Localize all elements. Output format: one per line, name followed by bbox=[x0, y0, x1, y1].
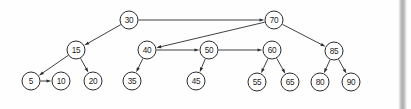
node-label-65: 65 bbox=[286, 78, 295, 87]
tree-node-40[interactable]: 40 bbox=[138, 41, 156, 59]
arrow-head-icon-n60 bbox=[257, 48, 262, 51]
arrow-head-icon-n15 bbox=[84, 41, 89, 45]
node-label-45: 45 bbox=[192, 77, 201, 86]
arrow-head-icon-n45 bbox=[200, 67, 203, 72]
arrow-head-icon-n40 bbox=[156, 45, 161, 48]
node-label-70: 70 bbox=[270, 16, 279, 25]
tree-diagram-svg: 3070154050608551020354555658090 bbox=[0, 0, 411, 109]
node-label-35: 35 bbox=[128, 77, 137, 86]
arrow-head-icon-n80 bbox=[324, 68, 328, 73]
tree-node-55[interactable]: 55 bbox=[248, 73, 266, 91]
arrow-head-icon-n35 bbox=[136, 67, 140, 72]
arrow-head-icon-n20 bbox=[85, 67, 89, 72]
node-layer: 3070154050608551020354555658090 bbox=[22, 11, 360, 91]
arrow-head-icon-n50 bbox=[194, 48, 199, 51]
tree-node-90[interactable]: 90 bbox=[342, 73, 360, 91]
tree-node-35[interactable]: 35 bbox=[123, 72, 141, 90]
node-label-50: 50 bbox=[205, 46, 214, 55]
arrow-head-icon-n85 bbox=[320, 43, 325, 47]
arrow-head-icon-n10 bbox=[46, 79, 51, 82]
node-label-60: 60 bbox=[268, 46, 277, 55]
arrow-head-icon-n55 bbox=[261, 68, 265, 73]
tree-node-20[interactable]: 20 bbox=[84, 72, 102, 90]
tree-node-65[interactable]: 65 bbox=[281, 73, 299, 91]
arrow-head-icon-n90 bbox=[343, 68, 347, 73]
node-label-5: 5 bbox=[29, 77, 34, 86]
node-label-10: 10 bbox=[57, 77, 66, 86]
node-label-30: 30 bbox=[125, 16, 134, 25]
node-label-40: 40 bbox=[143, 46, 152, 55]
tree-node-30[interactable]: 30 bbox=[120, 11, 138, 29]
edge-n60-to-n55 bbox=[263, 59, 268, 69]
arrow-head-icon-n5 bbox=[39, 71, 44, 75]
arrow-head-icon-n65 bbox=[281, 68, 285, 73]
tree-node-70[interactable]: 70 bbox=[265, 11, 283, 29]
edge-n15-to-n20 bbox=[81, 58, 86, 68]
edge-n85-to-n90 bbox=[339, 59, 344, 69]
node-label-15: 15 bbox=[72, 46, 81, 55]
node-label-85: 85 bbox=[330, 47, 339, 56]
edge-n60-to-n65 bbox=[277, 58, 283, 69]
node-label-20: 20 bbox=[89, 77, 98, 86]
edge-n15-to-n5 bbox=[43, 55, 68, 72]
vertical-scrollbar[interactable] bbox=[398, 0, 407, 109]
tree-diagram-canvas: 3070154050608551020354555658090 bbox=[0, 0, 411, 109]
node-label-80: 80 bbox=[316, 78, 325, 87]
node-label-90: 90 bbox=[347, 78, 356, 87]
tree-node-85[interactable]: 85 bbox=[325, 42, 343, 60]
arrow-head-icon-n70 bbox=[259, 18, 264, 21]
edge-n70-to-n85 bbox=[282, 24, 321, 44]
edge-n30-to-n15 bbox=[89, 25, 121, 43]
node-label-55: 55 bbox=[253, 78, 262, 87]
tree-node-60[interactable]: 60 bbox=[263, 41, 281, 59]
tree-node-15[interactable]: 15 bbox=[67, 41, 85, 59]
edge-n50-to-n45 bbox=[202, 59, 206, 68]
tree-node-80[interactable]: 80 bbox=[311, 73, 329, 91]
tree-node-10[interactable]: 10 bbox=[52, 72, 70, 90]
tree-node-45[interactable]: 45 bbox=[187, 72, 205, 90]
tree-node-5[interactable]: 5 bbox=[22, 72, 40, 90]
edge-n40-to-n35 bbox=[138, 59, 143, 68]
tree-node-50[interactable]: 50 bbox=[200, 41, 218, 59]
edge-n85-to-n80 bbox=[326, 60, 330, 69]
